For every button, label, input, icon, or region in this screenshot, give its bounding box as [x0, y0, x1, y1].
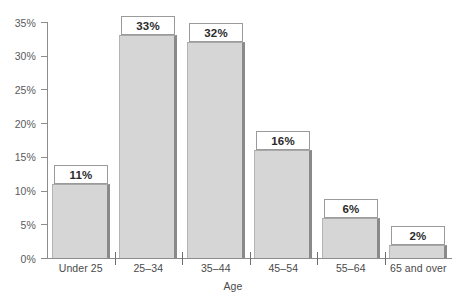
bar-value-label: 32%: [189, 23, 243, 42]
y-axis-tick-mark: 15%: [41, 157, 48, 158]
y-axis-tick-label: 0%: [21, 253, 36, 265]
y-axis-tick-mark: 20%: [41, 123, 48, 124]
y-axis-tick: 20%: [0, 123, 48, 124]
y-axis-tick: 0%: [0, 258, 48, 259]
y-axis-tick: 25%: [0, 89, 48, 90]
y-axis-tick: 35%: [0, 22, 48, 23]
y-axis-tick: 30%: [0, 56, 48, 57]
x-axis-category-label: 45–54: [250, 262, 318, 274]
bar-value-label: 6%: [324, 199, 378, 218]
y-axis-tick-mark: 10%: [41, 191, 48, 192]
bar-value-label: 16%: [256, 131, 310, 150]
bar: [187, 42, 245, 258]
bar-value-label: 11%: [54, 165, 108, 184]
y-axis-tick-mark: 30%: [41, 56, 48, 57]
bar-value-label: 2%: [391, 226, 445, 245]
bar: [254, 150, 312, 258]
y-axis-tick: 15%: [0, 157, 48, 158]
bar: [322, 218, 380, 258]
y-axis-tick-label: 5%: [21, 219, 36, 231]
y-axis-tick-label: 25%: [15, 84, 36, 96]
bar-value-label: 33%: [121, 16, 175, 35]
y-axis-tick: 10%: [0, 191, 48, 192]
bar: [119, 35, 177, 258]
y-axis-tick: 5%: [0, 224, 48, 225]
y-axis-tick-mark: 5%: [41, 224, 48, 225]
y-axis-tick-mark: 35%: [41, 22, 48, 23]
x-axis-category-label: 25–34: [115, 262, 183, 274]
y-axis-tick-label: 20%: [15, 118, 36, 130]
bar: [389, 245, 447, 258]
y-axis-tick-label: 10%: [15, 185, 36, 197]
x-axis-category-label: 65 and over: [385, 262, 453, 274]
bar: [52, 184, 110, 258]
y-axis-tick-label: 35%: [15, 17, 36, 29]
x-axis-title: Age: [0, 280, 466, 292]
x-axis-category-label: 55–64: [317, 262, 385, 274]
x-axis-category-label: Under 25: [47, 262, 115, 274]
bar-chart: 0%5%10%15%20%25%30%35% 11%33%32%16%6%2% …: [0, 0, 466, 300]
y-axis-tick-label: 15%: [15, 151, 36, 163]
y-axis-tick-mark: 25%: [41, 89, 48, 90]
y-axis-tick-label: 30%: [15, 50, 36, 62]
x-axis-category-label: 35–44: [182, 262, 250, 274]
